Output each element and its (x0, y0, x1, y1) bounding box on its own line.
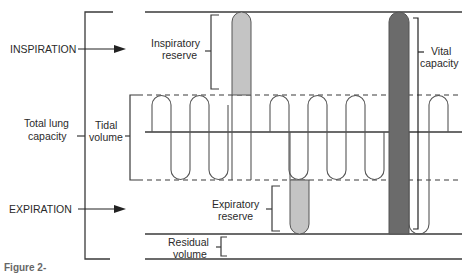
vital-capacity-bracket (413, 18, 418, 229)
vital-capacity-label-line1: Vital (431, 45, 451, 57)
inspiration-arrowhead-icon (114, 45, 126, 53)
vital-capacity-bar (389, 12, 409, 234)
total-lung-capacity-label-line1: Total lung (24, 117, 69, 129)
total-lung-capacity-label-line2: capacity (28, 130, 67, 142)
expiration-arrowhead-icon (114, 205, 126, 213)
inspiratory-reserve-bracket (211, 15, 219, 89)
residual-volume-label-line2: volume (173, 248, 207, 260)
tidal-volume-label-line2: volume (89, 131, 123, 143)
expiratory-reserve-bracket (272, 186, 280, 231)
inspiratory-reserve-label-line2: reserve (162, 49, 197, 61)
expiratory-reserve-bar (290, 180, 309, 234)
tidal-breathing-trace (152, 95, 384, 180)
residual-volume-label-line1: Residual (168, 236, 209, 248)
inspiratory-reserve-label-line1: Inspiratory (151, 37, 200, 49)
inspiration-label: INSPIRATION (10, 43, 76, 55)
tidal-volume-label-line1: Tidal (95, 119, 117, 131)
vital-capacity-label-line2: capacity (420, 57, 459, 69)
tidal-volume-bracket (130, 95, 138, 180)
inspiratory-reserve-bar (232, 12, 251, 95)
residual-volume-bracket (221, 237, 227, 256)
expiratory-reserve-label-line1: Expiratory (212, 198, 259, 210)
expiratory-reserve-label-line2: reserve (218, 210, 253, 222)
figure-caption-fragment: Figure 2- (4, 262, 46, 274)
post-vital-capacity-trace (409, 96, 448, 235)
expiration-label: EXPIRATION (9, 203, 72, 215)
